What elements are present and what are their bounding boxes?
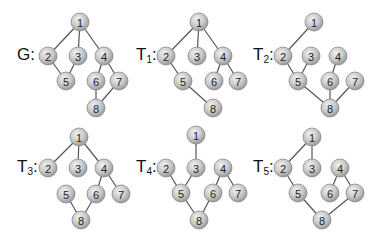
svg-text:6: 6 — [327, 76, 333, 88]
node-3: 3 — [303, 159, 321, 177]
node-1: 1 — [303, 128, 321, 146]
node-1: 1 — [190, 13, 208, 31]
node-5: 5 — [57, 72, 75, 90]
svg-text:4: 4 — [220, 51, 226, 63]
node-2: 2 — [274, 47, 292, 65]
node-7: 7 — [110, 72, 128, 90]
svg-text:2: 2 — [280, 163, 286, 175]
svg-text:8: 8 — [210, 103, 216, 115]
node-8: 8 — [87, 99, 105, 117]
node-7: 7 — [229, 184, 247, 202]
svg-text:4: 4 — [101, 163, 107, 175]
node-5: 5 — [289, 72, 307, 90]
svg-text:8: 8 — [93, 103, 99, 115]
node-7: 7 — [229, 72, 247, 90]
svg-text:7: 7 — [352, 76, 358, 88]
svg-text:8: 8 — [319, 215, 325, 227]
svg-text:3: 3 — [308, 51, 314, 63]
svg-text:4: 4 — [337, 163, 343, 175]
node-4: 4 — [214, 159, 232, 177]
svg-text:5: 5 — [180, 76, 186, 88]
node-3: 3 — [69, 159, 87, 177]
svg-text:1: 1 — [76, 132, 82, 144]
graph-label: T4: — [136, 157, 157, 177]
graph-t1: T1:12345678 — [136, 13, 247, 117]
node-2: 2 — [274, 159, 292, 177]
svg-text:6: 6 — [210, 188, 216, 200]
svg-text:8: 8 — [78, 215, 84, 227]
node-2: 2 — [39, 159, 57, 177]
node-6: 6 — [321, 72, 339, 90]
graph-label: T2: — [253, 45, 274, 65]
node-5: 5 — [289, 184, 307, 202]
node-7: 7 — [346, 72, 364, 90]
node-6: 6 — [204, 184, 222, 202]
node-1: 1 — [70, 128, 88, 146]
svg-text:5: 5 — [63, 189, 69, 201]
graph-diagram: G:12345678T1:12345678T2:12345678T3:12345… — [0, 0, 376, 240]
svg-text:3: 3 — [194, 51, 200, 63]
node-6: 6 — [87, 72, 105, 90]
svg-text:7: 7 — [116, 76, 122, 88]
svg-text:7: 7 — [235, 76, 241, 88]
graph-t4: T4:12345678 — [136, 126, 247, 229]
node-5: 5 — [57, 185, 75, 203]
svg-text:2: 2 — [45, 163, 51, 175]
svg-text:2: 2 — [45, 51, 51, 63]
svg-text:3: 3 — [309, 163, 315, 175]
svg-text:5: 5 — [63, 76, 69, 88]
svg-text:4: 4 — [335, 51, 341, 63]
node-6: 6 — [87, 185, 105, 203]
svg-text:1: 1 — [77, 17, 83, 29]
node-7: 7 — [112, 185, 130, 203]
graph-label: T1: — [136, 45, 157, 65]
node-4: 4 — [331, 159, 349, 177]
node-3: 3 — [69, 47, 87, 65]
svg-text:7: 7 — [235, 188, 241, 200]
svg-text:7: 7 — [352, 188, 358, 200]
svg-text:5: 5 — [178, 188, 184, 200]
node-8: 8 — [204, 99, 222, 117]
node-8: 8 — [321, 99, 339, 117]
svg-text:1: 1 — [196, 17, 202, 29]
node-6: 6 — [205, 72, 223, 90]
node-1: 1 — [71, 13, 89, 31]
node-2: 2 — [157, 47, 175, 65]
svg-text:1: 1 — [193, 130, 199, 142]
svg-text:6: 6 — [93, 189, 99, 201]
svg-text:6: 6 — [327, 188, 333, 200]
svg-text:3: 3 — [75, 163, 81, 175]
graph-label: G: — [17, 45, 35, 64]
node-4: 4 — [95, 47, 113, 65]
svg-text:1: 1 — [311, 17, 317, 29]
svg-text:8: 8 — [327, 103, 333, 115]
graph-g: G:12345678 — [17, 13, 128, 117]
svg-text:6: 6 — [211, 76, 217, 88]
svg-text:6: 6 — [93, 76, 99, 88]
svg-text:8: 8 — [196, 215, 202, 227]
node-5: 5 — [172, 184, 190, 202]
node-6: 6 — [321, 184, 339, 202]
node-7: 7 — [346, 184, 364, 202]
svg-text:3: 3 — [193, 163, 199, 175]
svg-text:5: 5 — [295, 188, 301, 200]
node-8: 8 — [72, 211, 90, 229]
node-3: 3 — [188, 47, 206, 65]
svg-text:1: 1 — [309, 132, 315, 144]
svg-text:4: 4 — [101, 51, 107, 63]
node-1: 1 — [305, 13, 323, 31]
svg-text:3: 3 — [75, 51, 81, 63]
node-4: 4 — [214, 47, 232, 65]
node-2: 2 — [39, 47, 57, 65]
svg-text:5: 5 — [295, 76, 301, 88]
graph-label: T3: — [17, 157, 38, 177]
node-3: 3 — [187, 159, 205, 177]
svg-text:7: 7 — [118, 189, 124, 201]
graph-label: T5: — [253, 157, 274, 177]
node-4: 4 — [95, 159, 113, 177]
node-3: 3 — [302, 47, 320, 65]
node-1: 1 — [187, 126, 205, 144]
svg-text:4: 4 — [220, 163, 226, 175]
graph-t2: T2:12345678 — [253, 13, 364, 117]
node-4: 4 — [329, 47, 347, 65]
